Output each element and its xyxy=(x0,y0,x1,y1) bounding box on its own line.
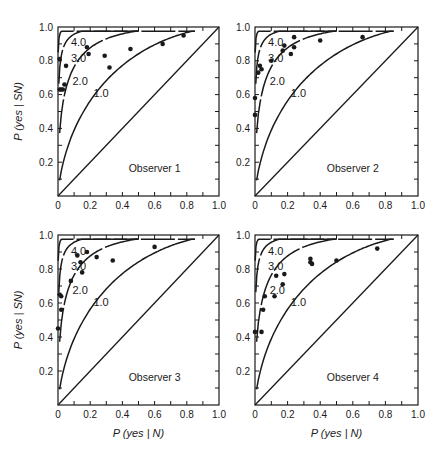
x-tick-label: 1.0 xyxy=(411,200,425,211)
x-tick-label: 1.0 xyxy=(212,409,226,420)
data-point xyxy=(256,70,261,75)
data-point xyxy=(280,282,285,287)
data-point xyxy=(282,43,287,48)
x-tick-label: 0 xyxy=(252,409,258,420)
data-point xyxy=(292,35,297,40)
x-tick-label: 0 xyxy=(55,200,61,211)
data-point xyxy=(94,255,99,260)
curve-label: 4.0 xyxy=(71,36,86,48)
y-tick-label: 1.0 xyxy=(236,22,250,33)
data-point xyxy=(282,272,287,277)
x-tick-label: 0 xyxy=(55,409,61,420)
data-point xyxy=(334,258,339,263)
data-point xyxy=(292,45,297,50)
x-tick-label: 0.2 xyxy=(281,200,295,211)
observer-label: Observer 2 xyxy=(327,162,379,174)
data-point xyxy=(152,245,157,250)
y-tick-label: 0.4 xyxy=(236,123,250,134)
x-tick-label: 0.6 xyxy=(346,200,360,211)
y-axis-title: P (yes | SN) xyxy=(12,82,24,141)
y-tick-label: 0.6 xyxy=(39,89,53,100)
x-axis-title: P (yes | N) xyxy=(311,427,363,439)
roc-figure: 00.20.40.60.81.00.20.40.60.81.04.03.02.0… xyxy=(0,0,441,462)
data-point xyxy=(64,64,69,69)
x-tick-label: 0.4 xyxy=(313,200,327,211)
y-tick-label: 0.2 xyxy=(236,366,250,377)
x-tick-label: 0.6 xyxy=(148,200,162,211)
y-tick-label: 0.6 xyxy=(236,298,250,309)
data-point xyxy=(181,33,186,38)
y-tick-label: 0.8 xyxy=(236,55,250,66)
curve-label: 2.0 xyxy=(72,75,87,87)
y-tick-label: 0.8 xyxy=(39,264,53,275)
y-tick-label: 0.2 xyxy=(39,157,53,168)
data-point xyxy=(272,294,277,299)
x-tick-label: 0.4 xyxy=(313,409,327,420)
x-tick-label: 0.8 xyxy=(180,409,194,420)
x-tick-label: 1.0 xyxy=(411,409,425,420)
data-point xyxy=(274,274,279,279)
curve-label: 1.0 xyxy=(93,296,108,308)
x-axis-title: P (yes | N) xyxy=(113,427,165,439)
data-point xyxy=(62,82,67,87)
x-tick-label: 0.4 xyxy=(115,200,129,211)
curve-label: 2.0 xyxy=(72,284,87,296)
x-tick-label: 0.8 xyxy=(378,409,392,420)
data-point xyxy=(85,45,90,50)
data-point xyxy=(289,52,294,57)
roc-panel-observer-1: 00.20.40.60.81.00.20.40.60.81.04.03.02.0… xyxy=(12,22,226,212)
data-point xyxy=(102,53,107,58)
data-point xyxy=(80,270,85,275)
data-point xyxy=(78,260,83,265)
data-point xyxy=(59,294,64,299)
data-point xyxy=(280,48,285,53)
data-point xyxy=(85,250,90,255)
x-tick-label: 0.6 xyxy=(148,409,162,420)
data-point xyxy=(75,253,80,258)
data-point xyxy=(318,38,323,43)
data-point xyxy=(110,258,115,263)
curve-label: 4.0 xyxy=(268,245,283,257)
curve-label: 4.0 xyxy=(268,36,283,48)
y-tick-label: 0.6 xyxy=(236,89,250,100)
y-tick-label: 0.4 xyxy=(236,332,250,343)
x-tick-label: 0.4 xyxy=(115,409,129,420)
y-tick-label: 1.0 xyxy=(39,22,53,33)
data-point xyxy=(57,57,62,62)
roc-panel-observer-3: 00.20.40.60.81.00.20.40.60.81.04.03.02.0… xyxy=(12,230,226,440)
x-tick-label: 1.0 xyxy=(212,200,226,211)
y-tick-label: 0.6 xyxy=(39,298,53,309)
data-point xyxy=(61,87,66,92)
y-axis-title: P (yes | SN) xyxy=(12,290,24,349)
y-tick-label: 0.2 xyxy=(236,157,250,168)
data-point xyxy=(259,330,264,335)
y-tick-label: 0.8 xyxy=(236,264,250,275)
observer-label: Observer 3 xyxy=(129,371,181,383)
x-tick-label: 0.6 xyxy=(346,409,360,420)
data-point xyxy=(107,65,112,70)
observer-label: Observer 1 xyxy=(129,162,181,174)
y-tick-label: 0.4 xyxy=(39,332,53,343)
data-point xyxy=(375,246,380,251)
curve-label: 2.0 xyxy=(270,75,285,87)
data-point xyxy=(160,42,165,47)
data-point xyxy=(259,67,264,72)
x-tick-label: 0.2 xyxy=(83,200,97,211)
data-point xyxy=(253,113,258,118)
roc-panel-observer-4: 00.20.40.60.81.00.20.40.60.81.04.03.02.0… xyxy=(236,230,425,440)
x-tick-label: 0.2 xyxy=(281,409,295,420)
data-point xyxy=(128,47,133,52)
data-point xyxy=(262,294,267,299)
data-point xyxy=(360,35,365,40)
observer-label: Observer 4 xyxy=(327,371,379,383)
data-point xyxy=(69,279,74,284)
y-tick-label: 0.4 xyxy=(39,123,53,134)
x-tick-label: 0 xyxy=(252,200,258,211)
roc-panel-observer-2: 00.20.40.60.81.00.20.40.60.81.04.03.02.0… xyxy=(236,22,425,212)
y-tick-label: 1.0 xyxy=(39,230,53,241)
curve-label: 1.0 xyxy=(93,87,108,99)
data-point xyxy=(253,330,258,335)
curve-label: 1.0 xyxy=(291,87,306,99)
data-point xyxy=(56,326,61,331)
data-point xyxy=(86,52,91,57)
